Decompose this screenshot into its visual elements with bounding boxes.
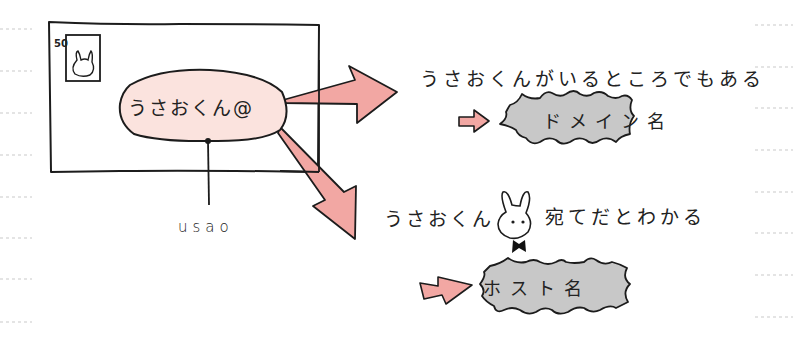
host-term: ホスト名 [483, 274, 591, 300]
small-arrow-host [420, 277, 472, 304]
rabbit-stamp-icon [66, 35, 100, 81]
domain-term: ドメイン名 [543, 107, 673, 133]
domain-caption: うさおくんがいるところでもある [420, 64, 765, 91]
envelope-edge [280, 171, 319, 172]
username-label: usao [178, 218, 234, 236]
small-arrow-domain [459, 110, 489, 132]
pointer-line [208, 141, 209, 205]
ruled-lines-left [0, 29, 32, 322]
address-bubble-text: うさおくん@ [128, 93, 254, 120]
stamp-value: 50 [54, 38, 68, 49]
host-caption-before: うさおくん [384, 204, 494, 231]
rabbit-with-bowtie-icon [498, 192, 531, 253]
host-caption-after: 宛てだとわかる [545, 202, 706, 229]
email-address-diagram: 50 うさおくん@ usao うさおくんがいるところでもある ドメイン名 うさお… [0, 0, 793, 344]
arrow-to-host [278, 127, 356, 239]
arrow-to-domain [283, 66, 397, 123]
